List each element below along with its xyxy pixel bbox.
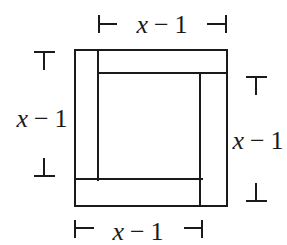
top-dimension-label: x−1 — [135, 10, 187, 39]
diagram-canvas: x−1 x−1 x−1 x−1 — [0, 0, 287, 245]
bottom-dimension: x−1 — [75, 217, 202, 245]
right-dimension-label: x−1 — [231, 126, 283, 155]
right-dimension: x−1 — [231, 77, 283, 201]
left-dimension: x−1 — [15, 52, 67, 176]
left-dimension-label: x−1 — [15, 104, 67, 133]
top-dimension: x−1 — [99, 10, 226, 39]
bottom-dimension-label: x−1 — [111, 217, 163, 245]
